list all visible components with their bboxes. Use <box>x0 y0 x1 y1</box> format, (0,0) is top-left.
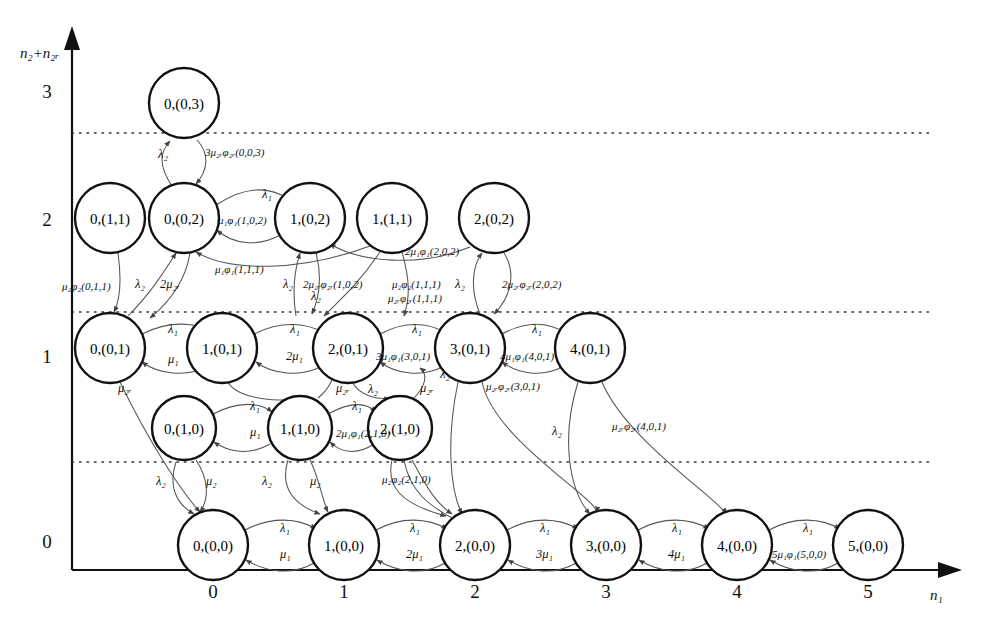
state-node-label: 1,(0,0) <box>324 538 364 555</box>
edge-102-to-002 <box>217 230 282 243</box>
state-node[interactable]: 0,(0,2) <box>149 183 219 253</box>
state-nodes: 0,(0,3)0,(1,1)0,(0,2)1,(0,2)1,(1,1)2,(0,… <box>75 68 903 580</box>
edge-010-to-000 <box>196 460 206 512</box>
x-tick-4: 4 <box>732 581 742 602</box>
transition-rate-label: λ₁ <box>279 521 290 535</box>
y-tick-0: 0 <box>42 531 52 552</box>
transition-rate-label: 5μ₁φ₁(5,0,0) <box>772 548 826 561</box>
y-axis-arrowhead <box>64 26 80 50</box>
transition-rate-label: λ₁ <box>539 521 550 535</box>
transition-rate-label: μ₂ᵣ <box>419 381 434 395</box>
y-tick-labels: 3 2 1 0 <box>42 81 52 552</box>
edge-201-to-202 <box>473 253 482 314</box>
transition-rate-label: 3μ₂ᵣφ₂ᵣ(0,0,3) <box>204 146 265 159</box>
transition-rate-label: λ₂ <box>134 277 145 291</box>
transition-rate-label: λ₂ <box>261 474 272 488</box>
state-node-label: 0,(0,1) <box>90 341 130 358</box>
transition-rate-label: 2μ₂ᵣ <box>160 277 180 291</box>
transition-rate-label: λ₁ <box>531 322 542 336</box>
state-node[interactable]: 2,(0,2) <box>459 183 529 253</box>
edge-400-to-401 <box>569 382 590 514</box>
y-axis-label: n₂+n₂ᵣ <box>20 45 60 61</box>
state-node-label: 4,(0,1) <box>570 341 610 358</box>
edge-210-to-110 <box>330 442 374 451</box>
state-node[interactable]: 1,(1,1) <box>357 183 427 253</box>
state-node[interactable]: 1,(1,0) <box>268 396 332 460</box>
state-node-label: 4,(0,0) <box>717 538 757 555</box>
state-node[interactable]: 0,(0,1) <box>75 313 145 383</box>
state-node[interactable]: 0,(1,0) <box>152 396 216 460</box>
transition-rate-label: λ₁ <box>261 187 272 201</box>
x-tick-5: 5 <box>863 581 873 602</box>
x-tick-0: 0 <box>208 581 218 602</box>
transition-rate-label: μ₂ <box>205 474 217 488</box>
transition-rate-label: μ₂ᵣφ₂ᵣ(1,1,1) <box>387 292 442 305</box>
state-node[interactable]: 1,(0,1) <box>187 313 257 383</box>
transition-rate-label: μ₂φ₂(2,1,0) <box>381 473 431 486</box>
state-node[interactable]: 0,(1,1) <box>75 183 145 253</box>
transition-rate-label: μ₂φ₂(1,1,1) <box>391 278 441 291</box>
x-axis-arrowhead <box>938 562 962 578</box>
diagram-canvas: 3 2 1 0 0 1 2 3 4 5 n₂+n₂ᵣ n₁ <box>0 0 982 627</box>
x-tick-1: 1 <box>339 581 349 602</box>
state-node[interactable]: 0,(0,3) <box>149 68 219 138</box>
edge-201-to-101 <box>256 362 322 373</box>
transition-rate-label: λ₂ <box>155 474 166 488</box>
transition-rate-label: μ₁φ₁(1,1,1) <box>214 263 264 276</box>
state-node[interactable]: 2,(0,0) <box>440 510 510 580</box>
transition-rate-label: λ₂ <box>454 277 465 291</box>
transition-rate-label: μ₂φ₂(0,1,1) <box>61 280 111 293</box>
state-node-label: 0,(0,2) <box>164 211 204 228</box>
edge-000-to-010 <box>173 462 194 514</box>
transition-rate-label: μ₁ <box>167 352 179 366</box>
transition-rate-label: λ₁ <box>411 322 422 336</box>
state-node[interactable]: 5,(0,0) <box>833 510 903 580</box>
y-tick-2: 2 <box>42 209 52 230</box>
state-node-label: 1,(0,1) <box>202 341 242 358</box>
transition-rate-label: μ₁ <box>279 547 291 561</box>
transition-rate-label: λ₂ <box>439 367 450 381</box>
transition-rate-label: 2μ₁ <box>406 547 423 561</box>
transition-rate-label: 2μ₁φ₁(2,1,0) <box>336 427 390 440</box>
edge-110-to-010 <box>214 442 270 451</box>
state-node-label: 1,(0,2) <box>290 211 330 228</box>
state-node-label: 5,(0,0) <box>848 538 888 555</box>
state-node[interactable]: 3,(0,0) <box>571 510 641 580</box>
edge-401-to-301 <box>502 362 564 373</box>
transition-rate-label: λ₁ <box>802 521 813 535</box>
transition-rate-label: λ₁ <box>671 521 682 535</box>
edge-101-to-102 <box>294 253 300 316</box>
transition-rate-label: λ₁ <box>351 399 362 413</box>
state-node-label: 3,(0,1) <box>450 341 490 358</box>
edge-011-to-001 <box>114 253 120 312</box>
x-tick-3: 3 <box>601 581 611 602</box>
state-node[interactable]: 1,(0,0) <box>309 510 379 580</box>
x-tick-2: 2 <box>470 581 480 602</box>
state-node[interactable]: 1,(0,2) <box>275 183 345 253</box>
state-node[interactable]: 2,(0,1) <box>313 313 383 383</box>
state-node-label: 1,(1,0) <box>280 421 320 438</box>
state-node-label: 2,(0,2) <box>474 211 514 228</box>
y-tick-3: 3 <box>42 81 52 102</box>
state-node[interactable]: 4,(0,0) <box>702 510 772 580</box>
edge-010-to-110 <box>213 404 272 414</box>
edge-101-to-201 <box>254 325 324 335</box>
transition-rate-label: 3μ₁φ₁(3,0,1) <box>375 350 430 363</box>
transition-rate-label: 4μ₁ <box>668 547 685 561</box>
state-node[interactable]: 4,(0,1) <box>555 313 625 383</box>
state-node-label: 1,(1,1) <box>372 211 412 228</box>
state-node[interactable]: 0,(0,0) <box>178 510 248 580</box>
edge-300-to-301 <box>451 382 462 514</box>
transition-rate-label: λ₁ <box>167 322 178 336</box>
x-axis-label: n₁ <box>930 587 943 603</box>
transition-rate-label: 2μ₁φ₁(2,0,2) <box>405 245 459 258</box>
transition-rate-label: μ₂ᵣφ₂ᵣ(4,0,1) <box>611 420 666 433</box>
state-node-label: 3,(0,0) <box>586 538 626 555</box>
transition-rate-label: μ₁φ₁(1,0,2) <box>217 214 267 227</box>
transition-rate-label: λ₁ <box>409 521 420 535</box>
transition-rate-label: μ₂ᵣ <box>117 381 132 395</box>
state-diagram-svg: 3 2 1 0 0 1 2 3 4 5 n₂+n₂ᵣ n₁ <box>0 0 982 627</box>
y-tick-1: 1 <box>42 346 52 367</box>
x-tick-labels: 0 1 2 3 4 5 <box>208 581 873 602</box>
transition-rate-label: μ₂ᵣ <box>335 381 350 395</box>
